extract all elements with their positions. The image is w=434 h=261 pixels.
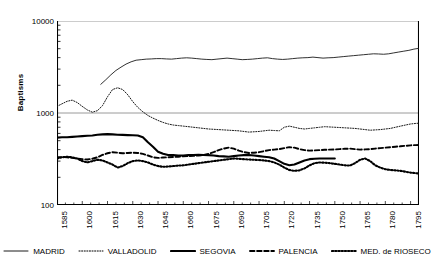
legend-swatch-icon bbox=[331, 247, 357, 255]
x-tick-label: 1705 bbox=[262, 211, 271, 229]
x-tick-label: 1765 bbox=[363, 211, 372, 229]
legend-swatch-icon bbox=[170, 247, 196, 255]
legend-label: PALENCIA bbox=[279, 247, 318, 256]
x-tick-label: 1660 bbox=[186, 211, 195, 229]
y-tick-label: 10000 bbox=[32, 17, 54, 26]
legend-label: MED. de RIOSECO bbox=[361, 247, 431, 256]
legend-item[interactable]: PALENCIA bbox=[249, 247, 318, 256]
chart-legend: MADRIDVALLADOLIDSEGOVIAPALENCIAMED. de R… bbox=[0, 243, 434, 259]
x-tick-label: 1750 bbox=[338, 211, 347, 229]
plot-svg bbox=[57, 21, 419, 205]
series-line-madrid bbox=[101, 48, 419, 84]
y-axis-ticks: 100001000100 bbox=[0, 0, 54, 261]
baptisms-line-chart: 100001000100 Baptisms 158516001615163016… bbox=[0, 0, 434, 261]
legend-swatch-icon bbox=[249, 247, 275, 255]
legend-item[interactable]: MED. de RIOSECO bbox=[331, 247, 431, 256]
y-tick-label: 1000 bbox=[36, 109, 54, 118]
legend-label: SEGOVIA bbox=[200, 247, 236, 256]
legend-item[interactable]: SEGOVIA bbox=[170, 247, 236, 256]
series-line-palencia bbox=[57, 145, 419, 160]
x-tick-label: 1795 bbox=[414, 211, 423, 229]
legend-label: VALLADOLID bbox=[108, 247, 157, 256]
x-tick-label: 1630 bbox=[136, 211, 145, 229]
legend-swatch-icon bbox=[3, 247, 29, 255]
x-tick-label: 1780 bbox=[388, 211, 397, 229]
x-tick-label: 1690 bbox=[237, 211, 246, 229]
x-tick-label: 1600 bbox=[85, 211, 94, 229]
x-tick-label: 1675 bbox=[212, 211, 221, 229]
x-tick-label: 1585 bbox=[60, 211, 69, 229]
plot-area bbox=[57, 21, 419, 205]
x-tick-label: 1720 bbox=[287, 211, 296, 229]
legend-label: MADRID bbox=[33, 247, 65, 256]
series-line-valladolid bbox=[57, 88, 419, 132]
y-axis-label: Baptisms bbox=[16, 53, 25, 133]
legend-item[interactable]: VALLADOLID bbox=[78, 247, 157, 256]
y-tick-label: 100 bbox=[41, 201, 54, 210]
x-tick-label: 1735 bbox=[313, 211, 322, 229]
x-tick-label: 1645 bbox=[161, 211, 170, 229]
legend-item[interactable]: MADRID bbox=[3, 247, 65, 256]
x-axis-ticks: 1585160016151630164516601675169017051720… bbox=[57, 208, 419, 242]
x-tick-label: 1615 bbox=[111, 211, 120, 229]
series-line-med-de-rioseco bbox=[57, 157, 419, 174]
legend-swatch-icon bbox=[78, 247, 104, 255]
